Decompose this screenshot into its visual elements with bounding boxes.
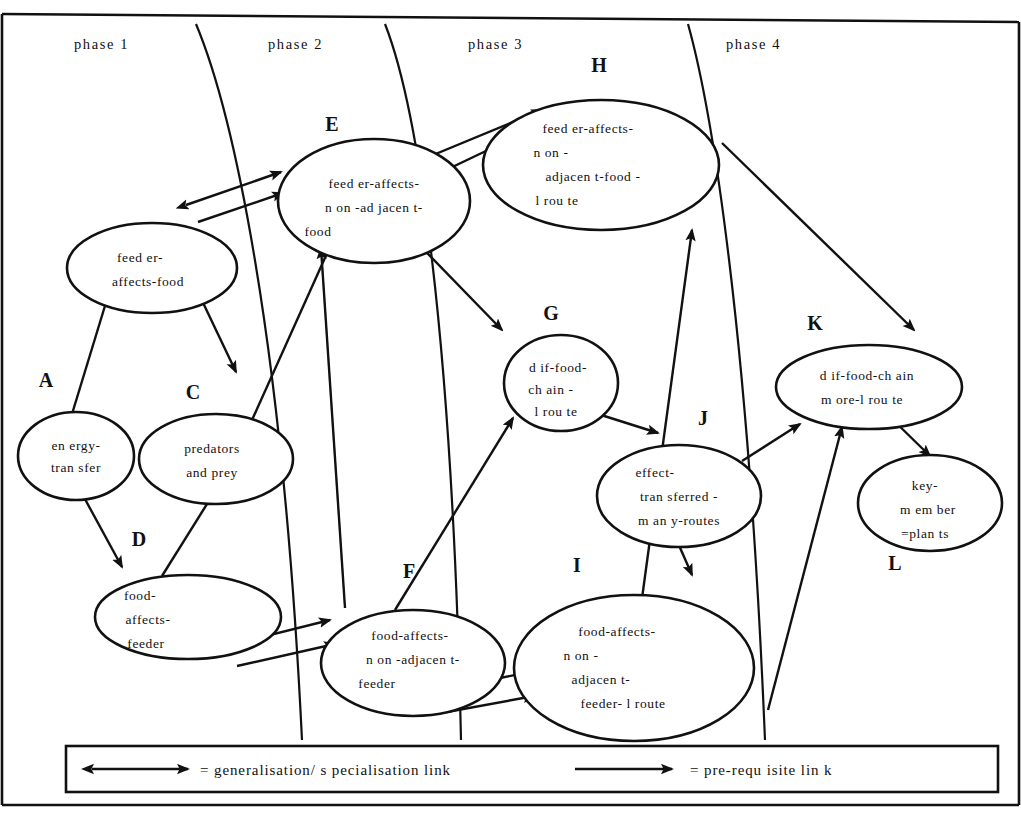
node-E-line-1: n on -ad jacen t- <box>325 200 423 215</box>
concept-map-svg: phase 1 phase 2 phase 3 phase 4 <box>0 0 1021 817</box>
node-F-line-2: feeder <box>358 676 395 691</box>
node-J-line-0: effect- <box>635 465 674 480</box>
node-J[interactable]: J effect- tran sferred - m an y-routes <box>597 407 761 547</box>
link-B-to-E-gen <box>186 172 281 205</box>
node-J-line-1: tran sferred - <box>640 489 718 504</box>
node-L-line-2: =plan ts <box>901 526 949 541</box>
node-D-letter: D <box>132 528 146 550</box>
diagram-canvas: phase 1 phase 2 phase 3 phase 4 <box>0 0 1021 817</box>
node-A-line-0: en ergy- <box>51 438 100 453</box>
node-I-line-0: food-affects- <box>578 624 655 639</box>
node-H-letter: H <box>591 54 607 76</box>
legend-prerequisite-label: = pre-requ isite lin k <box>690 762 832 778</box>
node-G-line-1: ch ain - <box>528 382 573 397</box>
node-F-line-0: food-affects- <box>371 628 448 643</box>
link-A-to-D <box>80 490 122 567</box>
legend-generalisation-label: = generalisation/ s pecialisation link <box>200 762 451 778</box>
node-G-letter: G <box>543 302 559 324</box>
node-H-line-1: n on - <box>533 145 568 160</box>
node-L-line-0: key- <box>912 478 938 493</box>
node-H[interactable]: H feed er-affects- n on - adjacen t-food… <box>483 54 719 230</box>
link-A-to-B <box>72 296 108 414</box>
node-A-ellipse[interactable] <box>18 412 134 500</box>
node-D[interactable]: D food- affects- feeder <box>95 528 281 659</box>
node-C-line-0: predators <box>184 441 240 456</box>
node-I-line-3: feeder- l route <box>580 696 665 711</box>
node-F-line-1: n on -adjacen t- <box>366 652 460 667</box>
link-I-to-H <box>635 230 692 650</box>
link-F-to-E <box>321 248 345 608</box>
node-K[interactable]: K d if-food-ch ain m ore-l rou te <box>776 312 962 429</box>
node-B-line-0: feed er- <box>117 250 163 265</box>
node-A-letter: A <box>39 369 54 391</box>
node-F-letter: F <box>403 560 415 582</box>
node-J-line-2: m an y-routes <box>638 513 720 528</box>
link-G-to-J <box>598 414 658 433</box>
node-C[interactable]: C predators and prey <box>139 381 293 504</box>
link-H-to-K <box>722 143 914 330</box>
phase-label-1: phase 1 <box>74 36 129 52</box>
node-K-line-0: d if-food-ch ain <box>820 368 914 383</box>
node-H-line-3: l rou te <box>535 193 578 208</box>
node-L[interactable]: L key- m em ber =plan ts <box>858 455 1002 574</box>
link-C-to-E <box>252 240 333 420</box>
node-C-line-1: and prey <box>186 465 238 480</box>
node-G-line-2: l rou te <box>534 404 577 419</box>
phase-label-2: phase 2 <box>268 36 323 52</box>
node-K-line-1: m ore-l rou te <box>821 392 903 407</box>
node-D-line-2: feeder <box>127 636 164 651</box>
node-D-line-0: food- <box>124 588 156 603</box>
node-H-line-0: feed er-affects- <box>542 121 633 136</box>
link-J-to-K <box>742 424 800 461</box>
node-I-letter: I <box>573 554 581 576</box>
node-H-ellipse[interactable] <box>483 100 719 230</box>
node-C-ellipse[interactable] <box>139 414 293 504</box>
node-D-line-1: affects- <box>125 612 170 627</box>
phase-label-3: phase 3 <box>468 36 523 52</box>
node-E-line-0: feed er-affects- <box>328 176 419 191</box>
node-F[interactable]: F food-affects- n on -adjacen t- feeder <box>321 560 505 716</box>
node-I-line-2: adjacen t- <box>572 672 631 687</box>
node-B-line-1: affects-food <box>112 274 184 289</box>
node-C-letter: C <box>186 381 200 403</box>
legend: = generalisation/ s pecialisation link =… <box>66 746 998 792</box>
node-B[interactable]: feed er- affects-food <box>67 223 237 313</box>
node-I[interactable]: I food-affects- n on - adjacen t- feeder… <box>514 554 754 741</box>
node-H-line-2: adjacen t-food - <box>545 169 640 184</box>
node-J-letter: J <box>698 407 708 429</box>
node-A-line-1: tran sfer <box>51 460 101 475</box>
node-L-letter: L <box>888 552 901 574</box>
node-E[interactable]: E feed er-affects- n on -ad jacen t- foo… <box>278 113 470 263</box>
node-G-line-0: d if-food- <box>529 360 587 375</box>
phase-labels: phase 1 phase 2 phase 3 phase 4 <box>74 36 781 52</box>
node-A[interactable]: A en ergy- tran sfer <box>18 369 134 500</box>
node-L-line-1: m em ber <box>900 502 956 517</box>
node-E-letter: E <box>325 113 338 135</box>
node-B-ellipse[interactable] <box>67 223 237 313</box>
node-K-ellipse[interactable] <box>776 345 962 429</box>
node-K-letter: K <box>807 312 823 334</box>
node-G[interactable]: G d if-food- ch ain - l rou te <box>504 302 618 431</box>
link-I-to-K <box>768 427 842 710</box>
node-E-line-2: food <box>304 224 331 239</box>
phase-label-4: phase 4 <box>726 36 781 52</box>
node-I-line-1: n on - <box>563 648 598 663</box>
node-I-ellipse[interactable] <box>514 595 754 741</box>
